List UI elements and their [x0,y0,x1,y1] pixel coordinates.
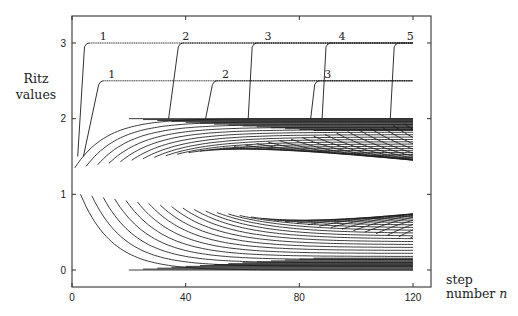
curve-index-label: 1 [108,68,115,81]
outlier-rise-segment [206,81,217,119]
y-axis-label-line2: values [15,87,56,102]
x-tick-label: 0 [69,292,75,303]
y-tick-label: 3 [60,38,66,49]
ritz-curve [92,196,413,266]
y-tick-label: 2 [60,113,66,124]
ritz-curve [137,202,413,253]
ritz-curve [206,211,413,236]
y-axis-label-line1: Ritz [23,71,48,86]
curve-index-label: 4 [338,30,345,43]
x-tick-label: 40 [180,292,192,303]
y-tick-label: 0 [60,265,66,276]
y-tick-label: 1 [60,189,66,200]
curve-labels-group: 12345123 [100,30,414,81]
curve-index-label: 3 [265,30,272,43]
x-axis-label-line2: number n [446,286,507,301]
x-tick-label: 120 [405,292,422,303]
ritz-values-chart: 12345123 040801200123 Ritz values step n… [0,0,518,316]
curve-index-label: 2 [182,30,189,43]
x-tick-label: 80 [294,292,306,303]
ritz-curve [410,237,413,239]
outlier-rise-segment [311,81,320,119]
plot-area [75,119,413,270]
curve-index-label: 3 [324,68,331,81]
outlier-rise-segment [83,81,103,157]
curve-index-label: 1 [100,30,107,43]
curve-index-label: 5 [407,30,414,43]
curve-index-label: 2 [222,68,229,81]
x-axis-label-line1: step [446,272,473,287]
